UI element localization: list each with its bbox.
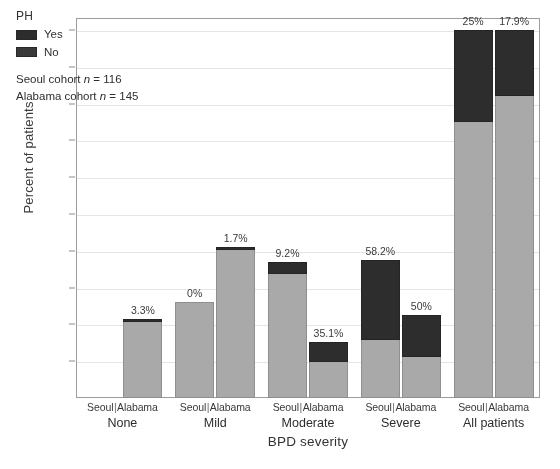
- bar-none-alabama[interactable]: [123, 319, 162, 398]
- bar-value-label: 1.7%: [224, 232, 248, 244]
- bar-value-label: 50%: [411, 300, 432, 312]
- bar-value-label: 9.2%: [276, 247, 300, 259]
- bar-moderate-seoul[interactable]: [268, 262, 307, 398]
- bar-segment-ph-yes: [402, 315, 441, 356]
- bar-segment-ph-no: [175, 302, 214, 398]
- bar-segment-ph-no: [123, 319, 162, 398]
- x-axis-title: BPD severity: [76, 434, 540, 449]
- note-alabama: Alabama cohort n = 145: [16, 88, 138, 105]
- bar-mild-alabama[interactable]: [216, 247, 255, 398]
- bar-segment-ph-yes: [309, 342, 348, 362]
- x-tick-cohort-right: Alabama: [117, 401, 158, 413]
- bar-segment-ph-yes: [216, 247, 255, 250]
- bar-value-label: 25%: [463, 15, 484, 27]
- bar-value-label: 58.2%: [365, 245, 395, 257]
- x-tick-group-all-patients: Seoul|AlabamaAll patients: [434, 401, 554, 430]
- y-axis-tick-mark: [69, 324, 75, 325]
- legend-item-no: No: [16, 45, 138, 61]
- bar-segment-ph-yes: [123, 319, 162, 322]
- bar-severe-seoul[interactable]: [361, 260, 400, 398]
- y-axis-tick-mark: [69, 140, 75, 141]
- legend-item-yes: Yes: [16, 27, 138, 43]
- legend-title: PH: [16, 8, 138, 24]
- legend: PH Yes No Seoul cohort n = 116 Alabama c…: [16, 8, 138, 105]
- y-axis-tick-mark: [69, 250, 75, 251]
- bar-value-label: 17.9%: [499, 15, 529, 27]
- y-axis-tick-mark: [69, 287, 75, 288]
- chart-figure: Percent of patients 10%20%30%40%50%60%70…: [0, 0, 560, 469]
- legend-note: Seoul cohort n = 116 Alabama cohort n = …: [16, 71, 138, 104]
- bar-all-patients-alabama[interactable]: [495, 30, 534, 398]
- bar-value-label: 35.1%: [314, 327, 344, 339]
- note-seoul: Seoul cohort n = 116: [16, 71, 138, 88]
- x-tick-cohort-left: Seoul: [365, 401, 391, 413]
- x-tick-cohort-left: Seoul: [180, 401, 206, 413]
- x-tick-cohort-left: Seoul: [273, 401, 299, 413]
- legend-swatch-yes: [16, 30, 37, 40]
- x-tick-cohort-right: Alabama: [303, 401, 344, 413]
- x-tick-cohort-left: Seoul: [458, 401, 484, 413]
- bar-all-patients-seoul[interactable]: [454, 30, 493, 398]
- bar-value-label: 0%: [187, 287, 202, 299]
- bar-segment-ph-yes: [361, 260, 400, 340]
- bar-segment-ph-no: [216, 247, 255, 398]
- y-axis-tick-mark: [69, 361, 75, 362]
- bar-segment-ph-no: [268, 262, 307, 398]
- x-tick-cohort-right: Alabama: [395, 401, 436, 413]
- bar-value-label: 3.3%: [131, 304, 155, 316]
- bar-segment-ph-yes: [454, 30, 493, 122]
- x-tick-group-name: All patients: [434, 416, 554, 430]
- x-tick-cohort-right: Alabama: [488, 401, 529, 413]
- legend-label-no: No: [44, 45, 59, 61]
- y-axis-tick-mark: [69, 214, 75, 215]
- legend-label-yes: Yes: [44, 27, 63, 43]
- x-tick-cohort-right: Alabama: [210, 401, 251, 413]
- bar-severe-alabama[interactable]: [402, 315, 441, 398]
- x-tick-cohort-left: Seoul: [87, 401, 113, 413]
- legend-swatch-no: [16, 47, 37, 57]
- y-axis-tick-mark: [69, 177, 75, 178]
- bar-moderate-alabama[interactable]: [309, 342, 348, 398]
- bar-segment-ph-yes: [268, 262, 307, 275]
- bar-segment-ph-yes: [495, 30, 534, 96]
- bar-mild-seoul[interactable]: [175, 302, 214, 398]
